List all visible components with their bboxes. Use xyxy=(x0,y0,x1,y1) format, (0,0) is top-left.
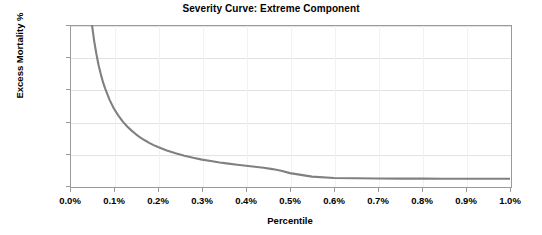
x-tick-label: 0.9% xyxy=(443,196,489,206)
x-tick-mark xyxy=(422,187,423,192)
y-tick-mark xyxy=(66,89,71,90)
x-tick-label: 0.0% xyxy=(47,196,93,206)
x-tick-mark xyxy=(290,187,291,192)
x-axis-title: Percentile xyxy=(70,215,510,226)
x-tick-label: 0.8% xyxy=(399,196,445,206)
severity-curve xyxy=(70,25,510,186)
x-tick-label: 0.4% xyxy=(223,196,269,206)
x-tick-label: 0.3% xyxy=(179,196,225,206)
y-tick-mark xyxy=(66,122,71,123)
x-tick-mark xyxy=(334,187,335,192)
x-tick-label: 1.0% xyxy=(487,196,533,206)
chart-title: Severity Curve: Extreme Component xyxy=(0,3,542,14)
x-tick-mark xyxy=(510,187,511,192)
x-tick-label: 0.1% xyxy=(91,196,137,206)
x-tick-mark xyxy=(378,187,379,192)
x-tick-mark xyxy=(246,187,247,192)
chart-container: Severity Curve: Extreme Component Excess… xyxy=(0,0,542,235)
x-tick-mark xyxy=(70,187,71,192)
y-axis-title: Excess Mortality % xyxy=(14,0,25,121)
x-tick-label: 0.5% xyxy=(267,196,313,206)
y-tick-mark xyxy=(66,57,71,58)
x-tick-label: 0.7% xyxy=(355,196,401,206)
x-tick-label: 0.2% xyxy=(135,196,181,206)
x-tick-mark xyxy=(158,187,159,192)
y-tick-mark xyxy=(66,154,71,155)
x-tick-label: 0.6% xyxy=(311,196,357,206)
y-tick-mark xyxy=(66,25,71,26)
x-tick-mark xyxy=(202,187,203,192)
x-tick-mark xyxy=(114,187,115,192)
x-tick-mark xyxy=(466,187,467,192)
